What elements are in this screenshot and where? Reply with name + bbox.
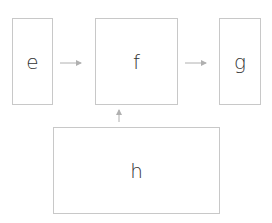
node-e: e <box>12 18 53 105</box>
node-e-label: e <box>26 50 38 74</box>
node-g-label: g <box>234 50 246 74</box>
node-f-label: f <box>133 50 140 74</box>
node-g: g <box>219 18 261 105</box>
node-f: f <box>95 18 178 105</box>
node-h-label: h <box>130 159 143 183</box>
node-h: h <box>53 127 220 214</box>
